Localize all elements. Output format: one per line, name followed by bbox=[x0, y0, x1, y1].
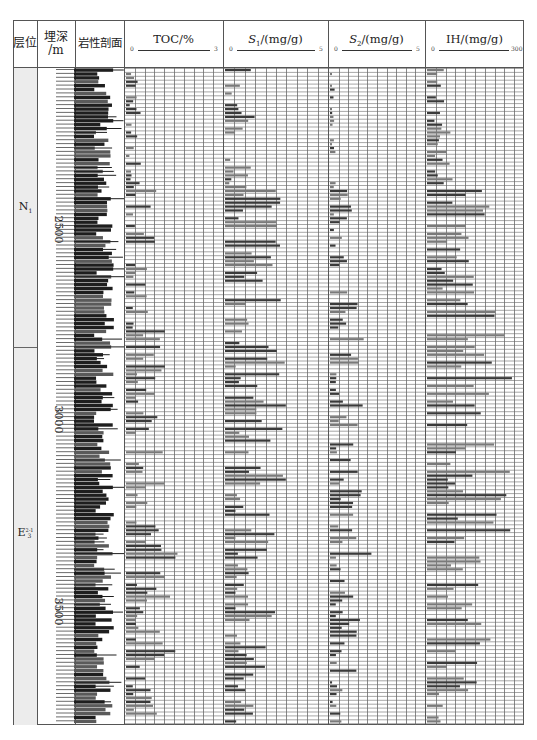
toc-axis-max: 3 bbox=[214, 45, 218, 52]
header-depth-unit: /m bbox=[48, 44, 63, 57]
track-ih bbox=[426, 68, 524, 725]
header-depth-label: 埋深 bbox=[44, 31, 68, 44]
header-stratum-label: 层位 bbox=[13, 37, 37, 50]
s1-title-unit: /(mg/g) bbox=[261, 32, 303, 46]
ih-axis-min: 0 bbox=[431, 45, 435, 52]
ih-axis-max: 300 bbox=[511, 45, 522, 52]
track-s1 bbox=[224, 68, 328, 725]
s2-axis-max: 5 bbox=[416, 45, 420, 52]
s2-title: S2/(mg/g) bbox=[328, 32, 425, 48]
s1-axis-max: 5 bbox=[319, 45, 323, 52]
header-lithology-label: 岩性剖面 bbox=[78, 37, 122, 50]
stratum-e3-label: E2-13 bbox=[14, 526, 37, 539]
header-lithology: 岩性剖面 bbox=[75, 20, 124, 67]
lithology-profile bbox=[56, 68, 124, 725]
track-header-ih: IH/(mg/g) 0 300 bbox=[425, 20, 524, 67]
ih-axis-line bbox=[439, 50, 509, 51]
s1-title-var: S bbox=[248, 32, 256, 46]
track-header-s2: S2/(mg/g) 0 5 bbox=[328, 20, 425, 67]
s2-bars bbox=[329, 68, 425, 725]
header-stratum: 层位 bbox=[13, 20, 37, 67]
track-s2 bbox=[329, 68, 425, 725]
s1-title: S1/(mg/g) bbox=[223, 32, 328, 48]
s2-axis-line bbox=[342, 50, 412, 51]
s2-title-unit: /(mg/g) bbox=[362, 32, 404, 46]
toc-axis-min: 0 bbox=[130, 45, 134, 52]
s2-title-var: S bbox=[349, 32, 357, 46]
column-divider bbox=[37, 20, 38, 725]
track-toc bbox=[125, 68, 223, 725]
s2-axis-min: 0 bbox=[334, 45, 338, 52]
toc-title: TOC/% bbox=[124, 32, 223, 46]
track-header-s1: S1/(mg/g) 0 5 bbox=[223, 20, 328, 67]
ih-title: IH/(mg/g) bbox=[425, 32, 524, 46]
toc-axis-line bbox=[138, 50, 210, 51]
toc-bars bbox=[125, 68, 223, 725]
s1-bars bbox=[224, 68, 328, 725]
ih-bars bbox=[426, 68, 524, 725]
track-header-toc: TOC/% 0 3 bbox=[124, 20, 223, 67]
s1-axis-min: 0 bbox=[229, 45, 233, 52]
lithology-column bbox=[56, 68, 124, 725]
stratum-n1-label: N1 bbox=[14, 200, 37, 214]
header-depth: 埋深 /m bbox=[37, 20, 75, 67]
s1-axis-line bbox=[237, 50, 315, 51]
